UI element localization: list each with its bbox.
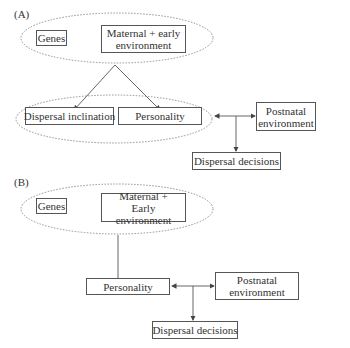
personality-box-a: Personality [118, 107, 202, 125]
maternal-box-a: Maternal + early environment [101, 25, 186, 53]
postnatal-box-a: Postnatal environment [256, 102, 316, 131]
genes-box-b: Genes [36, 198, 67, 214]
personality-box-b: Personality [86, 278, 170, 295]
genes-box-a: Genes [36, 30, 67, 46]
dispersal-decisions-box-a: Dispersal decisions [192, 152, 281, 170]
panel-label-b: (B) [14, 176, 29, 188]
postnatal-box-b: Postnatal environment [215, 272, 299, 300]
diagram: (A) Genes Maternal + early environment D… [0, 0, 350, 348]
panel-label-a: (A) [14, 8, 29, 20]
maternal-box-b: Maternal + Early environment [101, 193, 186, 222]
dispersal-inclination-box-a: Dispersal inclination [25, 107, 114, 125]
dispersal-decisions-box-b: Dispersal decisions [152, 321, 238, 339]
